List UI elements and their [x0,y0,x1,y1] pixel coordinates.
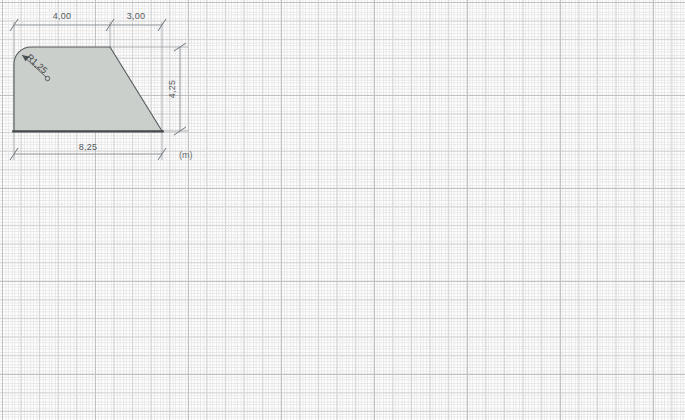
cad-drawing-canvas[interactable]: 4,00 3,00 4,25 8,25 R1,25 (m) [0,0,685,420]
dimension-label-height: 4,25 [167,80,177,98]
dimension-label-top-right: 3,00 [127,11,145,21]
technical-drawing[interactable]: 4,00 3,00 4,25 8,25 R1,25 (m) [0,0,685,420]
unit-label: (m) [179,150,193,160]
dimension-label-width: 8,25 [79,142,97,152]
dimension-label-top-left: 4,00 [53,11,71,21]
